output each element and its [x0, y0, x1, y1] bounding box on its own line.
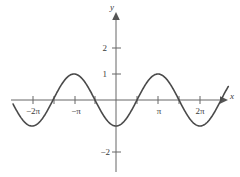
cosine-graph-svg: −2π −π π 2π 2 1 −2 x y: [0, 0, 240, 177]
x-tick-label--2pi: −2π: [26, 106, 41, 116]
y-axis-arrowhead: [112, 12, 120, 20]
x-tick-label-2pi: 2π: [195, 106, 205, 116]
x-tick-label--pi: −π: [71, 106, 81, 116]
y-tick-label--2: −2: [100, 147, 110, 157]
x-axis-label: x: [229, 91, 234, 101]
y-tick-label-2: 2: [103, 43, 108, 53]
y-tick-label-1: 1: [103, 69, 108, 79]
x-tick-label-pi: π: [157, 106, 162, 116]
x-axis: [11, 96, 228, 104]
y-axis-label: y: [109, 2, 114, 12]
graph-figure: −2π −π π 2π 2 1 −2 x y: [0, 0, 240, 177]
y-axis: [112, 12, 120, 172]
